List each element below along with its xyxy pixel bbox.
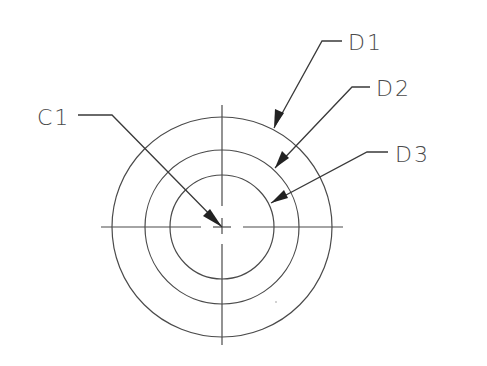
d3-arrowhead-icon bbox=[271, 190, 288, 203]
c1-arrowhead-icon bbox=[203, 209, 222, 227]
label-d3: D3 bbox=[395, 142, 430, 167]
d2-arrowhead-icon bbox=[275, 151, 289, 168]
c1-leader bbox=[78, 115, 222, 227]
concentric-circles-drawing: C1 D1 D2 D3 bbox=[0, 0, 487, 366]
d3-leader bbox=[271, 152, 388, 203]
d1-leader bbox=[274, 41, 342, 128]
stray-dot bbox=[275, 301, 277, 303]
label-d1: D1 bbox=[348, 30, 383, 55]
label-c1: C1 bbox=[37, 105, 70, 130]
label-d2: D2 bbox=[376, 76, 411, 101]
